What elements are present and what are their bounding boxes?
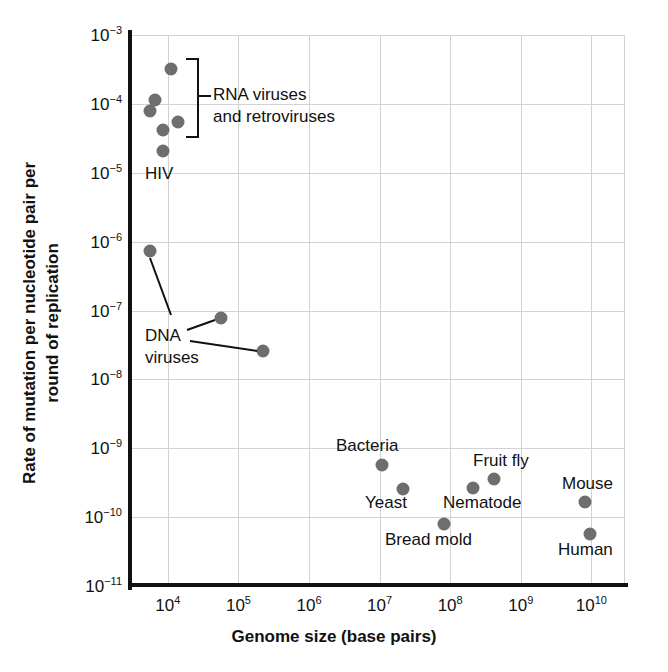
x-axis-title: Genome size (base pairs) [0,627,668,647]
y-tick-label-8: 10−11 [85,575,122,597]
mouse-label: Mouse [562,473,613,495]
rna-viruses-bracket [186,58,199,138]
nematode-label: Nematode [443,492,521,514]
data-point-rna-virus-4 [157,124,170,137]
human-label: Human [558,539,613,561]
y-axis-title-line1: Rate of mutation per nucleotide pair per [20,162,39,484]
rna-viruses-label-line1: RNA viruses [213,85,307,104]
y-tick-label-3: 10−6 [91,231,122,253]
gridline-y-2 [131,173,625,174]
x-tick-label-0: 104 [155,594,180,616]
gridline-y-3 [131,242,625,243]
rna-viruses-label-line2: and retroviruses [213,107,335,126]
data-point-dna-virus-3 [257,345,270,358]
bacteria-label: Bacteria [336,435,398,457]
x-tick-label-5: 109 [508,594,533,616]
dna-viruses-label-line2: viruses [145,348,199,367]
y-axis-line [128,30,132,590]
bread-mold-label: Bread mold [385,529,472,551]
yeast-label: Yeast [365,492,407,514]
dna-viruses-label: DNAviruses [145,325,199,369]
data-point-bacteria [376,459,389,472]
gridline-y-4 [131,311,625,312]
x-tick-label-1: 105 [226,594,251,616]
gridline-y-5 [131,379,625,380]
y-tick-label-1: 10−4 [91,93,122,115]
data-point-dna-virus-2 [215,312,228,325]
rna-viruses-label: RNA virusesand retroviruses [213,84,335,128]
data-point-rna-virus-3 [144,105,157,118]
x-tick-label-6: 1010 [576,594,607,616]
fruit-fly-label: Fruit fly [473,450,529,472]
hiv-label: HIV [145,163,173,185]
y-axis-title-line2: round of replication [43,243,62,403]
gridline-y-0 [131,35,625,36]
y-tick-label-2: 10−5 [91,162,122,184]
data-point-dna-virus-1 [144,245,157,258]
y-tick-label-6: 10−9 [91,437,122,459]
x-tick-label-2: 106 [297,594,322,616]
gridline-y-7 [131,517,625,518]
gridline-y-1 [131,104,625,105]
y-tick-label-5: 10−8 [91,369,122,391]
chart-figure: 10−310−410−510−610−710−810−910−1010−11 1… [0,0,668,672]
data-point-hiv [157,145,170,158]
data-point-rna-virus-5 [172,116,185,129]
y-tick-label-4: 10−7 [91,300,122,322]
rna-viruses-bracket-stem [197,95,211,97]
y-axis-title: Rate of mutation per nucleotide pair per… [19,43,65,603]
x-axis-line [128,583,628,587]
data-point-rna-virus-1 [165,63,178,76]
data-point-fruit-fly [488,473,501,486]
x-tick-label-3: 107 [367,594,392,616]
data-point-mouse [579,496,592,509]
y-tick-label-0: 10−3 [91,24,122,46]
y-tick-label-7: 10−10 [84,506,122,528]
x-tick-label-4: 108 [438,594,463,616]
dna-viruses-label-line1: DNA [145,326,181,345]
